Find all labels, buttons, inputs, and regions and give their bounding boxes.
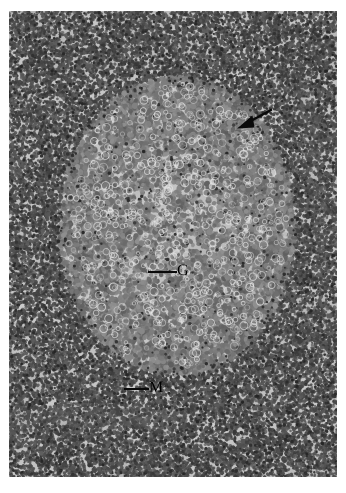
leader-line-germinal-center (148, 271, 177, 273)
micrograph-image: G M (9, 11, 337, 477)
tissue-canvas (9, 11, 337, 477)
leader-line-mantle-zone (124, 388, 149, 390)
label-mantle-zone: M (149, 380, 163, 396)
label-germinal-center: G (177, 263, 189, 279)
figure-root: G M (0, 0, 346, 493)
